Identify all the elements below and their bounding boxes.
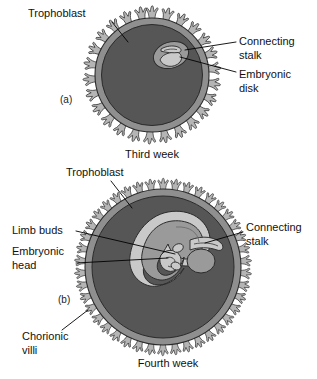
label-connecting-stalk-a-line1: Connecting xyxy=(239,35,295,47)
caption-fourth-week: Fourth week xyxy=(138,357,199,369)
embryology-figure: Trophoblast Connecting stalk Embryonic d… xyxy=(0,0,317,379)
label-embryonic-head-line1: Embryonic xyxy=(12,245,64,257)
label-connecting-stalk-b-line1: Connecting xyxy=(246,221,302,233)
label-connecting-stalk-b-line2: stalk xyxy=(246,235,269,247)
label-embryonic-disk-line2: disk xyxy=(239,82,259,94)
label-trophoblast-b: Trophoblast xyxy=(66,166,124,178)
label-chorionic-villi-line1: Chorionic xyxy=(22,330,69,342)
label-trophoblast-a: Trophoblast xyxy=(28,7,86,19)
label-embryonic-head-line2: head xyxy=(12,259,36,271)
caption-third-week: Third week xyxy=(125,148,179,160)
label-embryonic-disk-line1: Embryonic xyxy=(239,68,291,80)
label-chorionic-villi-line2: villi xyxy=(22,344,37,356)
label-connecting-stalk-a-line2: stalk xyxy=(239,49,262,61)
label-limb-buds: Limb buds xyxy=(12,224,63,236)
panel-label-a: (a) xyxy=(60,94,72,105)
panel-label-b: (b) xyxy=(58,294,70,305)
figure-canvas: Trophoblast Connecting stalk Embryonic d… xyxy=(0,0,317,379)
yolk-sac-b xyxy=(187,249,215,273)
chorionic-cavity-a xyxy=(102,25,203,126)
